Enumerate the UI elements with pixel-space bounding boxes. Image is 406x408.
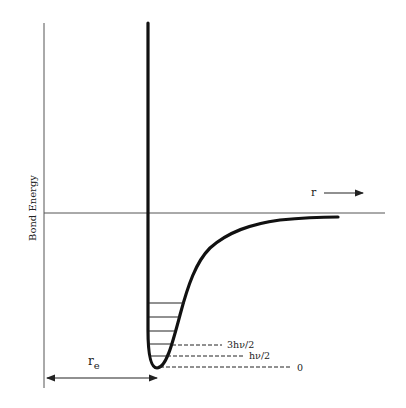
potential-curve bbox=[148, 23, 338, 368]
equilibrium-distance-label: re bbox=[88, 354, 100, 371]
level-zero-label: 0 bbox=[297, 362, 303, 373]
level-hv2-label: hν/2 bbox=[249, 350, 270, 361]
x-axis-label: r bbox=[311, 186, 317, 199]
potential-energy-diagram: Bond Energy r 3hν/2 hν/2 0 re bbox=[0, 0, 406, 408]
y-axis-label: Bond Energy bbox=[27, 175, 38, 241]
level-3hv2-label: 3hν/2 bbox=[227, 339, 254, 350]
re-subscript: e bbox=[94, 360, 100, 371]
